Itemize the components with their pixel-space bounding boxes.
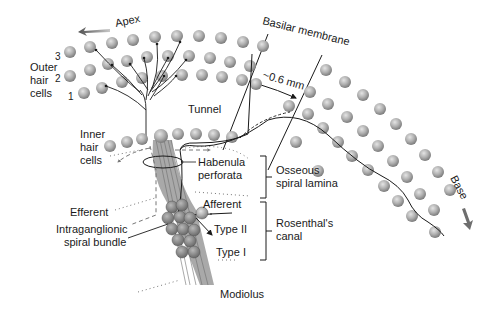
osseous-spiral-lamina-label-2: spiral lamina: [276, 177, 339, 189]
apex-arrow-icon: [78, 27, 110, 36]
basilar-membrane-lines: [223, 34, 322, 170]
outer-hair-cells: [64, 30, 456, 238]
row-2-number: 2: [55, 73, 61, 84]
intraganglionic-label-2: spiral bundle: [64, 236, 126, 248]
apex-label: Apex: [114, 12, 142, 29]
efferent-label: Efferent: [70, 206, 108, 218]
intraganglionic-label-1: Intraganglionic: [56, 223, 128, 235]
outer-hair-cells-label-2: hair: [30, 74, 49, 86]
brackets: [260, 156, 272, 260]
type-i-label: Type I: [216, 246, 246, 258]
inner-hair-cells-label-3: cells: [80, 154, 103, 166]
modiolus-label: Modiolus: [220, 288, 265, 300]
row-1-number: 1: [68, 91, 74, 102]
cochlea-innervation-diagram: Apex Basilar membrane ~0.6 mm: [0, 0, 502, 313]
tunnel-label: Tunnel: [188, 103, 221, 115]
type-ii-label: Type II: [214, 223, 247, 235]
rosenthals-canal-label-2: canal: [276, 230, 302, 242]
osseous-spiral-lamina-label-1: Osseous: [276, 164, 320, 176]
outer-hair-cells-label-1: Outer: [30, 61, 58, 73]
inner-hair-cells-label-1: Inner: [80, 128, 105, 140]
rosenthals-canal-label-1: Rosenthal's: [276, 217, 334, 229]
inner-hair-cells-label-2: hair: [80, 141, 99, 153]
width-measure-label: ~0.6 mm: [261, 68, 306, 91]
outer-hair-cells-label-3: cells: [30, 87, 53, 99]
type-ii-fiber-tree: [96, 42, 186, 143]
intraganglionic-pointer: [128, 224, 168, 238]
basilar-membrane-label: Basilar membrane: [262, 14, 352, 47]
habenula-label-2: perforata: [198, 169, 243, 181]
afferent-label: Afferent: [203, 198, 241, 210]
habenula-label-1: Habenula: [198, 156, 246, 168]
base-arrow-icon: [462, 208, 473, 230]
